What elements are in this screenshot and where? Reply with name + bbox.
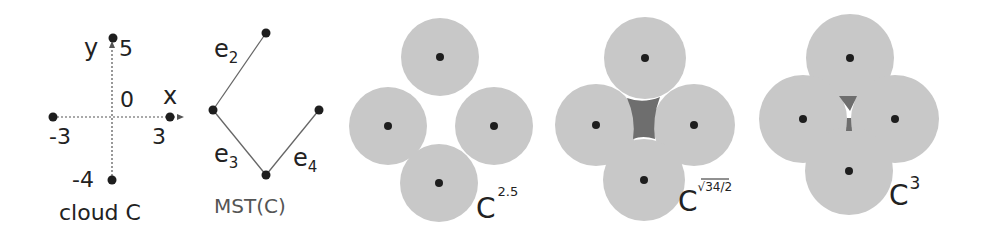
tick-label-x-right: 3 xyxy=(152,124,166,149)
center-bottom xyxy=(435,179,443,187)
cloud-point-top xyxy=(109,34,118,43)
mst-panel: e2 e3 e4 MST(C) xyxy=(209,29,324,219)
center-top xyxy=(846,54,854,62)
tick-label-y-top: 5 xyxy=(119,36,133,61)
center-right xyxy=(490,122,498,130)
center-top xyxy=(641,54,649,62)
center-left xyxy=(799,115,807,123)
edge-label-e3: e3 xyxy=(214,140,238,172)
offset-panel-sqrt34-2: C√34/2 xyxy=(555,17,735,221)
edge-label-e4: e4 xyxy=(293,144,317,176)
center-bottom xyxy=(640,176,648,184)
tick-label-x-left: -3 xyxy=(49,124,71,149)
center-right xyxy=(690,121,698,129)
offset-label-3: C3 xyxy=(889,173,920,212)
cloud-point-left xyxy=(49,113,58,122)
cloud-panel: y 5 0 x -3 3 -4 cloud C xyxy=(49,34,185,226)
mst-node-bottom xyxy=(262,171,271,180)
offset-label-2-5: C2.5 xyxy=(476,184,518,225)
origin-label: 0 xyxy=(120,87,134,112)
center-left xyxy=(384,122,392,130)
center-right xyxy=(891,115,899,123)
cloud-point-right xyxy=(166,113,175,122)
edge-label-e2: e2 xyxy=(214,35,238,67)
offset-label-sqrt34-2: C√34/2 xyxy=(678,180,732,218)
cloud-caption: cloud C xyxy=(59,200,141,225)
mst-node-top xyxy=(262,29,271,38)
offset-panel-2-5: C2.5 xyxy=(349,18,533,225)
mst-node-left xyxy=(209,106,218,115)
center-left xyxy=(592,121,600,129)
center-top xyxy=(436,53,444,61)
x-axis-label: x xyxy=(163,82,177,110)
mst-node-right xyxy=(315,106,324,115)
mst-caption: MST(C) xyxy=(214,194,286,218)
offset-panel-3: C3 xyxy=(759,14,939,215)
center-bottom xyxy=(845,167,853,175)
cloud-point-bottom xyxy=(108,176,117,185)
tick-label-y-bottom: -4 xyxy=(72,167,94,192)
x-axis-arrow-icon xyxy=(177,114,184,120)
y-axis-label: y xyxy=(84,34,98,62)
